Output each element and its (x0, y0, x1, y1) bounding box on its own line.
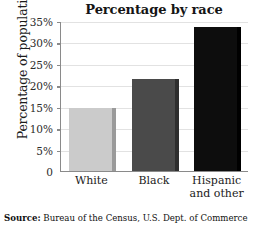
y-axis-tick-label: 25% (30, 59, 53, 71)
bar (132, 79, 179, 171)
y-axis-tick-mark (57, 22, 61, 23)
bar-side-shadow (237, 27, 241, 171)
y-axis-tick-label: 10% (30, 123, 53, 135)
y-axis-tick-mark (57, 43, 61, 44)
chart-title: Percentage by race (60, 2, 248, 17)
x-axis-tick-label-line: Hispanic (190, 175, 244, 188)
source-label: Source: (4, 213, 41, 223)
y-axis-tick-mark (57, 129, 61, 130)
bar (194, 27, 241, 171)
x-axis-tick-label-line: Black (139, 175, 170, 188)
y-axis-tick-labels: 05%10%15%20%25%30%35% (0, 22, 56, 172)
x-axis-tick-label-line: White (75, 175, 108, 188)
bar-side-shadow (112, 108, 116, 171)
source-note: Source: Bureau of the Census, U.S. Dept.… (4, 213, 248, 223)
x-axis-tick-label: Black (139, 175, 170, 188)
y-axis-tick-mark (57, 151, 61, 152)
chart-figure: Percentage by race Percentage of populat… (0, 0, 253, 228)
bar (69, 108, 116, 171)
y-axis-tick-label: 0 (46, 166, 53, 178)
source-text: Bureau of the Census, U.S. Dept. of Comm… (43, 213, 247, 223)
x-axis-tick-labels: WhiteBlackHispanicand other (60, 175, 248, 209)
bar-face (132, 79, 175, 171)
y-axis-tick-label: 15% (30, 102, 53, 114)
plot-area (60, 22, 248, 172)
bar-face (194, 27, 237, 171)
x-axis-tick-label: White (75, 175, 108, 188)
y-axis-tick-label: 30% (30, 37, 53, 49)
y-axis-tick-label: 20% (30, 80, 53, 92)
y-axis-tick-mark (57, 65, 61, 66)
bar-side-shadow (175, 79, 179, 171)
y-axis-tick-label: 35% (30, 16, 53, 28)
x-axis-tick-label: Hispanicand other (190, 175, 244, 200)
bar-face (69, 108, 112, 171)
y-axis-tick-label: 5% (36, 145, 53, 157)
gridline (61, 22, 248, 23)
y-axis-tick-mark (57, 86, 61, 87)
x-axis-tick-label-line: and other (190, 188, 244, 201)
y-axis-tick-mark (57, 108, 61, 109)
